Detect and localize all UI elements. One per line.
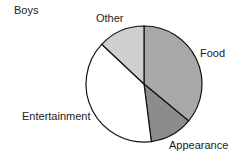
label-entertainment: Entertainment <box>22 110 90 122</box>
label-appearance: Appearance <box>169 139 228 151</box>
label-other: Other <box>96 12 124 24</box>
label-food: Food <box>200 47 225 59</box>
